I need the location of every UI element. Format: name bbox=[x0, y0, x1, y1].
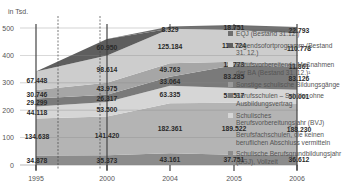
legend-swatch-icon bbox=[228, 31, 233, 36]
data-label: 26.317 bbox=[97, 95, 118, 102]
x-tick-label: 2006 bbox=[289, 175, 305, 182]
data-label: 34.878 bbox=[27, 157, 48, 164]
y-tick-label: 400 bbox=[2, 52, 14, 59]
legend-swatch-icon bbox=[228, 82, 233, 87]
data-label: 43.161 bbox=[160, 156, 181, 163]
data-label: 182.361 bbox=[158, 125, 183, 132]
legend-item: Berufsvorbereitende Maßnahmen der BA (Be… bbox=[228, 61, 343, 76]
y-tick-label: 100 bbox=[2, 134, 14, 141]
data-label: 35.373 bbox=[97, 157, 118, 164]
y-tick-label: 300 bbox=[2, 79, 14, 86]
legend-label: Sonstige schulische Bildungsgänge bbox=[236, 81, 340, 89]
x-tick-label: 1995 bbox=[28, 175, 44, 182]
legend-item: Schulische Berufsgrundbildungsjahr (BGJ)… bbox=[228, 150, 343, 165]
x-tick-label: 2000 bbox=[99, 175, 115, 182]
data-label: 134.638 bbox=[25, 133, 50, 140]
legend-swatch-icon bbox=[228, 43, 233, 48]
legend-label: Berufsvorbereitende Maßnahmen der BA (Be… bbox=[236, 61, 343, 76]
legend-label: EQJ (Bestand 31.12.) bbox=[236, 30, 299, 38]
data-label: 33.064 bbox=[160, 78, 181, 85]
y-tick-label: 200 bbox=[2, 107, 14, 114]
data-label: 53.500 bbox=[97, 106, 118, 113]
data-label: 67.448 bbox=[27, 77, 48, 84]
legend-label: Berufsschulen – Schüler ohne Ausbildungs… bbox=[236, 92, 343, 107]
chart-legend: EQJ (Bestand 31.12.)Jugendsofortprogramm… bbox=[228, 30, 343, 170]
y-tick-label: 500 bbox=[2, 25, 14, 32]
legend-item: Schulisches Berufsvorbereitungsjahr (BVJ… bbox=[228, 112, 343, 127]
legend-swatch-icon bbox=[228, 113, 233, 118]
data-label: 141.420 bbox=[95, 132, 120, 139]
data-label: 43.975 bbox=[97, 85, 118, 92]
legend-label: Berufsfachschulen, die keinen berufliche… bbox=[236, 131, 343, 146]
legend-item: Berufsschulen – Schüler ohne Ausbildungs… bbox=[228, 92, 343, 107]
y-tick-label: 0 bbox=[10, 162, 14, 169]
legend-item: Sonstige schulische Bildungsgänge bbox=[228, 81, 343, 89]
data-label: 44.118 bbox=[27, 109, 48, 116]
legend-item: Jugendsofortprogramm (Bestand 31. 12.) bbox=[228, 42, 343, 57]
data-label: 30.746 bbox=[27, 91, 48, 98]
data-label: 125.184 bbox=[158, 43, 183, 50]
x-tick-label: 2005 bbox=[226, 175, 242, 182]
legend-label: Schulisches Berufsvorbereitungsjahr (BVJ… bbox=[236, 112, 343, 127]
legend-item: EQJ (Bestand 31.12.) bbox=[228, 30, 343, 38]
data-label: 49.763 bbox=[160, 66, 181, 73]
data-label: 98.614 bbox=[97, 66, 118, 73]
legend-swatch-icon bbox=[228, 62, 233, 67]
data-label: 63.335 bbox=[160, 91, 181, 98]
legend-swatch-icon bbox=[228, 132, 233, 137]
x-tick-label: 2004 bbox=[162, 175, 178, 182]
legend-swatch-icon bbox=[228, 151, 233, 156]
data-label: 29.299 bbox=[27, 99, 48, 106]
data-label: 8.329 bbox=[161, 26, 178, 33]
legend-label: Schulische Berufsgrundbildungsjahr (BGJ)… bbox=[236, 150, 343, 165]
data-label: 60.950 bbox=[97, 44, 118, 51]
legend-label: Jugendsofortprogramm (Bestand 31. 12.) bbox=[236, 42, 343, 57]
legend-item: Berufsfachschulen, die keinen berufliche… bbox=[228, 131, 343, 146]
legend-swatch-icon bbox=[228, 93, 233, 98]
